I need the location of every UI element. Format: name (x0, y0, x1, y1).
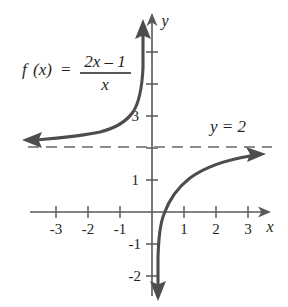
x-tick-label--2: -2 (82, 221, 95, 237)
y-tick-label--1: -1 (129, 236, 142, 252)
function-equals-sign: = (60, 60, 71, 79)
right-branch-path (158, 156, 250, 284)
asymptote-label: y = 2 (208, 117, 247, 136)
x-tick-label-1: 1 (180, 221, 188, 237)
y-axis-label: y (159, 12, 169, 30)
axes-group (30, 13, 271, 296)
function-name: f (22, 60, 29, 79)
function-label: f (x) = 2x – 1 x (22, 52, 131, 94)
x-tick-label--1: -1 (114, 221, 127, 237)
x-tick-label-2: 2 (212, 221, 220, 237)
x-axis-label: x (265, 218, 273, 235)
y-tick-label--2: -2 (129, 268, 142, 284)
function-numerator: 2x – 1 (84, 52, 126, 71)
x-tick-label-3: 3 (244, 221, 252, 237)
function-argument: (x) (33, 60, 52, 79)
function-graph-figure: -3 -2 -1 1 2 3 3 1 -1 -2 x y y = 2 (0, 0, 288, 307)
x-tick-label--3: -3 (50, 221, 63, 237)
curve-left-branch (22, 19, 151, 148)
y-tick-label-1: 1 (132, 172, 140, 188)
right-branch-right-arrow-icon (246, 147, 266, 162)
graph-canvas: -3 -2 -1 1 2 3 3 1 -1 -2 x y y = 2 (0, 0, 288, 307)
function-denominator: x (100, 75, 109, 94)
